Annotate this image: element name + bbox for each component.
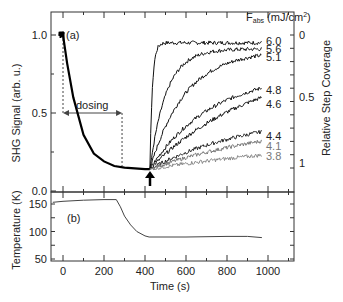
dosing-label: dosing	[76, 99, 108, 111]
tick-label: 200	[95, 265, 113, 277]
tick-label: 0.5	[32, 107, 47, 119]
temperature-curve	[53, 200, 262, 238]
series-label: 4.8	[266, 84, 281, 96]
series-label: 4.6	[266, 98, 281, 110]
x-axis-label: Time (s)	[150, 280, 190, 292]
tick-label: 600	[177, 265, 195, 277]
tick-label: 1000	[256, 265, 280, 277]
legend-series-labels: 6.05.65.14.84.64.44.13.8	[266, 35, 281, 162]
tick-label: 0	[299, 29, 305, 41]
series-label: 5.1	[266, 51, 281, 63]
y-axis-label-coverage: Relative Step Coverage	[320, 40, 332, 156]
tick-label: 400	[136, 265, 154, 277]
figure: (a) (b) dosing Fabs (mJ/cm2) 6.05.65.14.…	[0, 0, 343, 302]
tick-label: 150	[29, 198, 47, 210]
tick-label: 0.5	[299, 91, 314, 103]
tick-label: 100	[29, 226, 47, 238]
y-axis-label-temperature: Temperature (K)	[10, 190, 22, 269]
panel-a-label: (a)	[66, 29, 79, 41]
tick-label: 50	[35, 253, 47, 265]
panel-b-label: (b)	[67, 212, 80, 224]
tick-label: 0	[60, 265, 66, 277]
tick-label: 0.0	[32, 185, 47, 197]
plot-frame-b	[51, 192, 294, 261]
tick-label: 800	[218, 265, 236, 277]
irradiation-arrow-icon	[145, 171, 155, 186]
series-label: 3.8	[266, 150, 281, 162]
tick-label: 1	[299, 157, 305, 169]
tick-label: 1.0	[32, 29, 47, 41]
y-axis-label-shg: SHG Signal (arb. u.)	[10, 63, 22, 162]
legend-title: Fabs (mJ/cm2)	[246, 11, 311, 24]
